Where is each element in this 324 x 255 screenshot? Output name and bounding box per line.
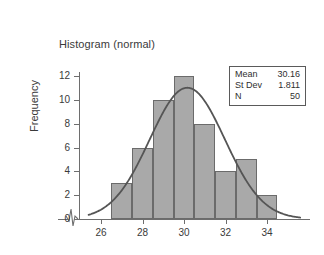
plot-area: 024681012 2628303234 — [0, 0, 324, 255]
stats-label: N — [235, 91, 252, 102]
stats-value: 1.811 — [272, 80, 300, 91]
stats-value: 30.16 — [272, 69, 300, 80]
histogram-screenshot: Histogram (normal) Frequency 024681012 2… — [0, 0, 324, 255]
stats-value: 50 — [272, 91, 300, 102]
stats-row: N50 — [235, 91, 300, 102]
stats-row: Mean30.16 — [235, 69, 300, 80]
stats-row: St Dev1.811 — [235, 80, 300, 91]
stats-label: St Dev — [235, 80, 272, 91]
normal-curve — [0, 0, 324, 255]
stats-box: Mean30.16St Dev1.811N50 — [229, 66, 306, 106]
stats-label: Mean — [235, 69, 268, 80]
